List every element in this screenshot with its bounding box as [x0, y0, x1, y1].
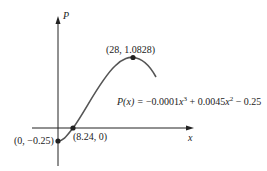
point-maximum: [130, 55, 135, 60]
profit-function-diagram: P x (28, 1.0828) (8.24, 0) (0, −0.25) P(…: [0, 0, 267, 171]
equation-term1-coef: −0.0001: [146, 96, 179, 107]
equation-label: P(x) = −0.0001x3 + 0.0045x2 − 0.25: [117, 97, 261, 107]
y-axis-label: P: [63, 11, 69, 21]
x-axis-arrow-icon: [186, 126, 194, 131]
y-axis-arrow-icon: [56, 16, 61, 24]
maximum-point-label: (28, 1.0828): [106, 45, 155, 55]
equation-term2-coef: + 0.0045: [187, 96, 225, 107]
point-x-intercept: [70, 125, 75, 130]
x-intercept-label: (8.24, 0): [73, 132, 107, 142]
point-y-intercept: [55, 138, 60, 143]
equation-term3: − 0.25: [233, 96, 261, 107]
y-intercept-label: (0, −0.25): [14, 136, 54, 146]
x-axis-label: x: [188, 133, 192, 143]
equation-lhs: P(x) =: [117, 96, 146, 107]
